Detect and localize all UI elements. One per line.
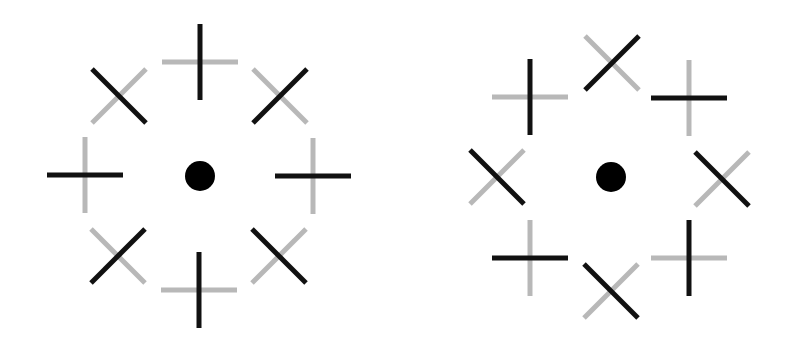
plus-top-icon [162, 24, 238, 100]
right-figure [470, 36, 749, 318]
diagram-canvas [0, 0, 789, 345]
plus-top-right-icon [651, 60, 727, 136]
x-top-icon [585, 36, 639, 90]
left-figure [47, 24, 351, 328]
fixation-dot-icon [185, 161, 215, 191]
plus-top-left-icon [492, 59, 568, 135]
x-top-right-icon [253, 69, 307, 123]
x-left-icon [470, 150, 524, 204]
x-bottom-right-icon [252, 229, 306, 283]
x-top-left-icon [92, 69, 146, 123]
x-bottom-left-icon [91, 229, 145, 283]
plus-left-icon [47, 137, 123, 213]
orientation-stimulus-diagram [0, 0, 789, 345]
plus-bottom-left-icon [492, 220, 568, 296]
x-bottom-icon [584, 264, 638, 318]
fixation-dot-icon [596, 162, 626, 192]
plus-right-icon [275, 138, 351, 214]
plus-bottom-icon [161, 252, 237, 328]
plus-bottom-right-icon [651, 220, 727, 296]
x-right-icon [695, 152, 749, 206]
